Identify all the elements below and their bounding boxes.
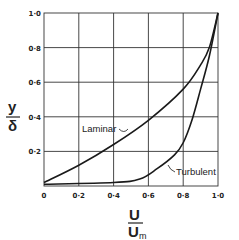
plot-frame: [44, 13, 218, 186]
x-tick-label: 0·2: [73, 192, 86, 200]
curve-laminar: [44, 13, 218, 183]
y-tick-label: 0·4: [29, 114, 42, 122]
laminar-leader: [119, 129, 128, 132]
x-tick-label: 0·4: [107, 192, 120, 200]
x-tick-label: 1·0: [212, 192, 225, 200]
y-tick-label: 0·6: [29, 79, 42, 87]
velocity-profile-chart: 00·20·40·60·81·00·20·40·60·81·0 Laminar …: [0, 0, 239, 240]
curve-turbulent: [44, 13, 218, 184]
x-axis-label-den: U: [128, 223, 139, 240]
x-tick-label: 0·8: [177, 192, 190, 200]
y-tick-label: 0·8: [29, 45, 42, 53]
turbulent-leader: [168, 165, 175, 172]
laminar-label: Laminar: [82, 123, 116, 134]
grid: [44, 13, 218, 186]
y-axis-label-den: δ: [8, 117, 17, 134]
y-tick-label: 1·0: [29, 10, 42, 18]
x-tick-label: 0: [42, 192, 47, 200]
x-tick-label: 0·6: [142, 192, 155, 200]
curves: [44, 13, 218, 184]
x-axis-label-num: U: [129, 206, 140, 223]
x-axis-label-sub: m: [139, 231, 147, 240]
y-tick-label: 0·2: [29, 148, 42, 156]
y-axis-label-num: y: [8, 98, 17, 115]
turbulent-label: Turbulent: [176, 166, 216, 177]
